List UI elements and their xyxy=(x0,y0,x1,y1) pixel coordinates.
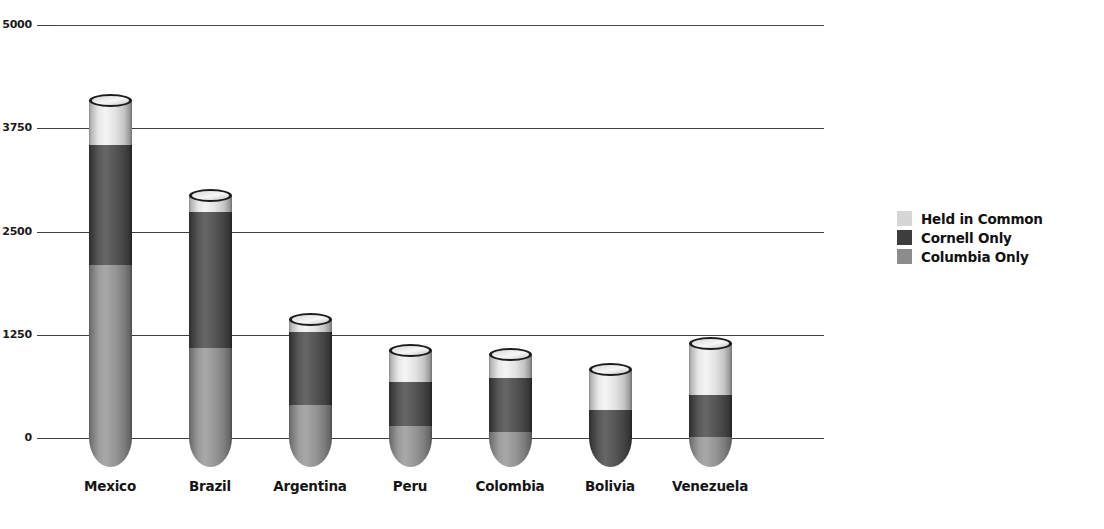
bar-segment-cornell-only xyxy=(289,332,332,405)
stacked-bar-chart: 01250250037505000 MexicoBrazilArgentinaP… xyxy=(0,0,1104,529)
x-axis-tick-label-venezuela: Venezuela xyxy=(640,478,780,494)
bar-bolivia xyxy=(589,0,632,529)
bar-segment-cornell-only xyxy=(189,212,232,348)
legend-swatch-icon xyxy=(897,249,912,264)
bar-base-cap xyxy=(489,437,532,467)
legend-label: Cornell Only xyxy=(921,230,1012,246)
bar-top-cap-face xyxy=(192,191,229,200)
bar-base-cap xyxy=(289,437,332,467)
chart-legend: Held in CommonCornell OnlyColumbia Only xyxy=(897,209,1097,266)
bar-top-cap-face xyxy=(592,365,629,374)
bar-base-cap xyxy=(689,437,732,467)
bar-segment-columbia-only xyxy=(89,265,132,438)
bar-segment-cornell-only xyxy=(689,395,732,437)
bar-segment-cornell-only xyxy=(589,410,632,438)
y-axis-tick-label: 2500 xyxy=(0,226,32,237)
bar-base-cap xyxy=(89,437,132,467)
bar-top-cap-face xyxy=(292,315,329,324)
bar-segment-columbia-only xyxy=(689,437,732,438)
bar-top-cap xyxy=(89,94,132,107)
bar-venezuela xyxy=(689,0,732,529)
y-axis-tick-mark xyxy=(37,25,53,26)
bar-base-cap xyxy=(389,437,432,467)
y-axis-tick-mark xyxy=(37,128,53,129)
bar-top-cap xyxy=(389,344,432,357)
y-axis-tick-label: 3750 xyxy=(0,122,32,133)
y-axis-tick-label: 0 xyxy=(0,432,32,443)
bar-segment-cornell-only xyxy=(389,382,432,426)
bar-brazil xyxy=(189,0,232,529)
legend-item-cornell-only[interactable]: Cornell Only xyxy=(897,228,1097,247)
legend-label: Columbia Only xyxy=(921,249,1029,265)
bar-mexico xyxy=(89,0,132,529)
bar-top-cap-face xyxy=(92,96,129,105)
bar-top-cap-face xyxy=(392,346,429,355)
bar-base-cap xyxy=(589,437,632,467)
bar-segment-held-in-common xyxy=(689,343,732,395)
bar-top-cap-face xyxy=(492,350,529,359)
legend-item-columbia-only[interactable]: Columbia Only xyxy=(897,247,1097,266)
bar-segment-columbia-only xyxy=(489,432,532,438)
bar-segment-held-in-common xyxy=(89,100,132,145)
y-axis-tick-label: 1250 xyxy=(0,329,32,340)
bar-argentina xyxy=(289,0,332,529)
legend-swatch-icon xyxy=(897,211,912,226)
legend-item-held-in-common[interactable]: Held in Common xyxy=(897,209,1097,228)
bar-segment-cornell-only xyxy=(489,378,532,432)
bar-segment-columbia-only xyxy=(189,348,232,438)
bar-top-cap-face xyxy=(692,339,729,348)
y-axis-tick-mark xyxy=(37,232,53,233)
y-axis-tick-mark xyxy=(37,335,53,336)
y-axis-tick-mark xyxy=(37,438,53,439)
bar-top-cap xyxy=(689,337,732,350)
bar-colombia xyxy=(489,0,532,529)
bar-segment-columbia-only xyxy=(289,405,332,438)
y-axis-tick-label: 5000 xyxy=(0,19,32,30)
bar-base-cap xyxy=(189,437,232,467)
bar-peru xyxy=(389,0,432,529)
bar-segment-cornell-only xyxy=(89,145,132,265)
legend-swatch-icon xyxy=(897,230,912,245)
bar-segment-columbia-only xyxy=(389,426,432,438)
legend-label: Held in Common xyxy=(921,211,1043,227)
